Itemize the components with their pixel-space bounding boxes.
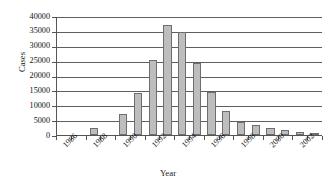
bar	[207, 92, 215, 135]
y-tick-label: 30000	[8, 42, 50, 50]
bar	[163, 25, 171, 135]
y-tick-label: 15000	[8, 87, 50, 95]
bar-slot	[57, 17, 72, 135]
x-tick-mark	[145, 136, 146, 140]
x-tick-mark	[204, 136, 205, 140]
x-tick-mark	[233, 136, 234, 140]
bar-slot	[293, 17, 308, 135]
bar-slot	[204, 17, 219, 135]
bar-slot	[101, 17, 116, 135]
bar-slot	[160, 17, 175, 135]
bar	[266, 128, 274, 135]
bar-slot	[86, 17, 101, 135]
bar-slot	[131, 17, 146, 135]
bar-slot	[248, 17, 263, 135]
y-tick-label: 5000	[8, 117, 50, 125]
bar-slot	[72, 17, 87, 135]
bar-slot	[278, 17, 293, 135]
bar	[193, 63, 201, 135]
y-tick-label: 10000	[8, 102, 50, 110]
y-tick-label: 35000	[8, 27, 50, 35]
y-tick-label: 20000	[8, 72, 50, 80]
bar-slot	[116, 17, 131, 135]
x-tick-mark	[86, 136, 87, 140]
x-tick-mark	[263, 136, 264, 140]
bar-slot	[175, 17, 190, 135]
bar	[296, 132, 304, 135]
x-tick-mark	[322, 136, 323, 140]
bar-slot	[145, 17, 160, 135]
x-tick-mark	[174, 136, 175, 140]
y-tick-label: 0	[8, 132, 50, 140]
bar-slot	[263, 17, 278, 135]
bar	[178, 32, 186, 135]
plot-area	[56, 17, 322, 136]
x-tick-mark	[292, 136, 293, 140]
bar-chart: Cases 0500010000150002000025000300003500…	[0, 0, 336, 186]
bar-slot	[307, 17, 322, 135]
x-axis-title: Year	[0, 168, 336, 178]
bar	[149, 60, 157, 135]
y-tick-label: 40000	[8, 13, 50, 21]
bar	[237, 122, 245, 135]
bar-slot	[219, 17, 234, 135]
bar-slot	[234, 17, 249, 135]
bar-series	[57, 17, 322, 135]
bar	[134, 93, 142, 135]
bar	[90, 128, 98, 135]
bar	[222, 111, 230, 135]
bar	[119, 114, 127, 135]
x-tick-mark	[115, 136, 116, 140]
bar-slot	[189, 17, 204, 135]
y-tick-label: 25000	[8, 57, 50, 65]
x-tick-mark	[56, 136, 57, 140]
